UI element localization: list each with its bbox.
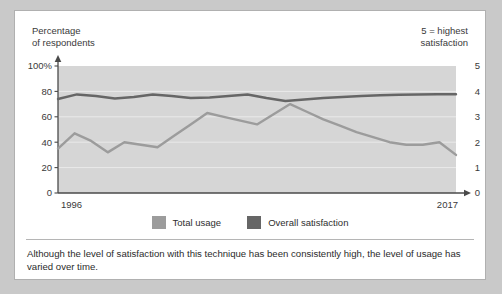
svg-text:80: 80 — [41, 86, 52, 97]
legend-swatch-total-usage — [152, 216, 166, 229]
svg-text:0: 0 — [47, 187, 52, 198]
figure-caption: Although the level of satisfaction with … — [27, 247, 471, 273]
legend-label-overall-satisfaction: Overall satisfaction — [268, 217, 348, 228]
svg-text:0: 0 — [475, 187, 480, 198]
svg-text:5: 5 — [475, 60, 480, 71]
svg-text:2017: 2017 — [437, 199, 458, 210]
svg-text:1996: 1996 — [61, 199, 82, 210]
line-chart: 100%580460340220100 19962017 — [15, 11, 487, 281]
svg-text:100%: 100% — [28, 60, 53, 71]
legend-item-overall-satisfaction: Overall satisfaction — [247, 216, 348, 229]
svg-text:2: 2 — [475, 137, 480, 148]
caption-divider — [26, 239, 474, 240]
legend-item-total-usage: Total usage — [152, 216, 222, 229]
figure-panel: Percentage of respondents 5 = highest sa… — [14, 10, 486, 280]
svg-text:20: 20 — [41, 162, 52, 173]
legend-swatch-overall-satisfaction — [247, 216, 261, 229]
chart-legend: Total usage Overall satisfaction — [15, 216, 485, 229]
svg-text:3: 3 — [475, 111, 480, 122]
plot-background — [58, 66, 456, 193]
x-axis-labels: 19962017 — [61, 199, 458, 210]
svg-text:4: 4 — [475, 86, 480, 97]
svg-text:1: 1 — [475, 162, 480, 173]
svg-text:60: 60 — [41, 111, 52, 122]
legend-label-total-usage: Total usage — [173, 217, 222, 228]
plot-area: 100%580460340220100 19962017 — [15, 11, 487, 281]
svg-text:40: 40 — [41, 137, 52, 148]
